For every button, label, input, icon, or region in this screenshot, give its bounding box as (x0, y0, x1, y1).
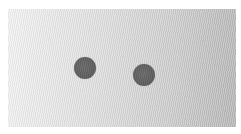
scene (0, 0, 241, 134)
right-dot (133, 64, 155, 86)
left-dot (74, 57, 96, 79)
textured-surface (8, 9, 236, 127)
